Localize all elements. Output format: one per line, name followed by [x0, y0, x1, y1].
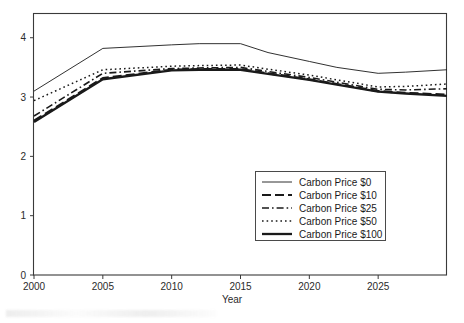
y-tick-label: 3 — [20, 92, 26, 103]
x-tick-label: 2005 — [92, 281, 115, 292]
x-axis-title: Year — [222, 294, 243, 305]
chart-figure: 01234 200020052010201520202025 Year Carb… — [0, 0, 464, 323]
legend-label[interactable]: Carbon Price $50 — [299, 216, 377, 227]
legend-label[interactable]: Carbon Price $0 — [299, 177, 372, 188]
line-chart: 01234 200020052010201520202025 Year Carb… — [0, 0, 464, 323]
legend-label[interactable]: Carbon Price $100 — [299, 229, 383, 240]
y-tick-label: 2 — [20, 151, 26, 162]
chart-legend[interactable]: Carbon Price $0Carbon Price $10Carbon Pr… — [256, 172, 386, 241]
x-tick-label: 2025 — [367, 281, 390, 292]
legend-label[interactable]: Carbon Price $25 — [299, 203, 377, 214]
y-tick-label: 4 — [20, 32, 26, 43]
legend-label[interactable]: Carbon Price $10 — [299, 190, 377, 201]
y-tick-label: 1 — [20, 210, 26, 221]
x-tick-label: 2015 — [229, 281, 252, 292]
x-tick-label: 2010 — [161, 281, 184, 292]
x-tick-label: 2020 — [298, 281, 321, 292]
y-tick-label: 0 — [20, 270, 26, 281]
x-tick-label: 2000 — [23, 281, 46, 292]
